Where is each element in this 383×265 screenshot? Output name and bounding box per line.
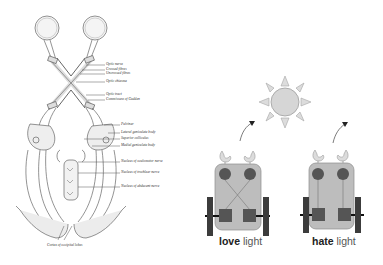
caption-light-word: light: [243, 235, 262, 247]
occipital-cortex-right: [74, 210, 122, 238]
right-eyeball-icon: [83, 16, 107, 40]
caption-light-word: light: [337, 235, 356, 247]
label-commissure-of-gudden: Commissure of Gudden: [106, 97, 140, 101]
caption-hate-word: hate: [312, 235, 334, 247]
motor-left: [219, 209, 232, 222]
label-uncrossed-fibres: Uncrossed fibres: [106, 71, 130, 75]
light-sensor-left: [219, 168, 231, 180]
figure-canvas: [0, 0, 383, 265]
label-nucleus-oculomotor: Nucleus of oculomotor nerve: [121, 159, 163, 163]
robot-love-light: [205, 151, 270, 236]
wheel-left: [207, 197, 213, 236]
label-lateral-geniculate-body: Lateral geniculate body: [121, 130, 155, 134]
light-sensor-left: [312, 168, 324, 180]
label-nucleus-abducent: Nucleus of abducent nerve: [121, 184, 159, 188]
caption-love-word: love: [219, 235, 240, 247]
motor-left: [312, 208, 325, 221]
label-cortex-occipital: Cortex of occipital lobes: [47, 243, 82, 247]
caption-love-light: love light: [219, 235, 262, 247]
robot-hate-light: [300, 150, 364, 233]
label-medial-geniculate-body: Medial geniculate body: [121, 143, 155, 147]
wheel-right: [355, 197, 361, 233]
light-sensor-right: [337, 168, 349, 180]
arrow-icon: [240, 121, 348, 143]
wheel-left: [303, 197, 309, 233]
label-pulvinar: Pulvinar: [121, 122, 134, 126]
wheel-right: [263, 197, 269, 236]
label-nucleus-trochlear: Nucleus of trochlear nerve: [121, 170, 159, 174]
motor-right: [243, 209, 256, 222]
visual-pathway-illustration: [16, 16, 126, 240]
caption-hate-light: hate light: [312, 235, 356, 247]
label-optic-nerve: Optic nerve: [106, 62, 123, 66]
sun-icon: [259, 76, 311, 128]
left-eyeball-icon: [35, 16, 59, 40]
light-sensor-right: [244, 168, 256, 180]
label-optic-chiasma: Optic chiasma: [106, 79, 127, 83]
label-optic-tract: Optic tract: [106, 92, 122, 96]
motor-right: [338, 208, 351, 221]
label-superior-colliculus: Superior colliculus: [121, 136, 148, 140]
